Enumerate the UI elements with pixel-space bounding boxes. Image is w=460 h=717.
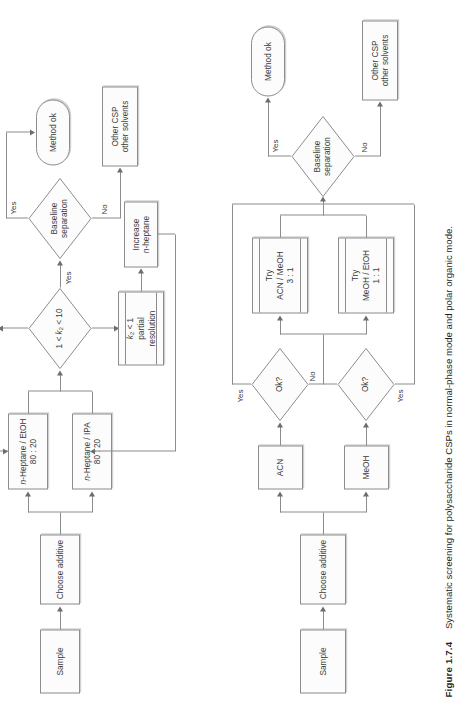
node-np-increase-heptane: Increase n-heptane [124, 201, 158, 267]
edge-po-base-yes-v [268, 155, 291, 156]
arrowhead-icon [277, 491, 283, 496]
edge-np-base-yes-v2 [6, 131, 32, 132]
arrowhead-icon [363, 422, 369, 427]
edge-np-etoh-out [28, 391, 29, 413]
node-np-k-range-decision: 1 < k2 < 10 [28, 287, 92, 369]
diamond-shape-icon [251, 347, 309, 421]
edge-po-trymeoh-out [366, 215, 367, 237]
edge-po-no-split-vertical [280, 333, 366, 334]
edge-np-fan-vertical [28, 511, 92, 512]
arrowhead-icon [363, 491, 369, 496]
node-po-ok-meoh-decision: Ok? [337, 347, 395, 421]
edge-po-fan-vertical [280, 511, 366, 512]
rotated-book-page: Sample Choose additive n-Heptane / EtOH … [0, 0, 460, 717]
node-label-line1: k2 < 1 [125, 317, 136, 338]
edge-po-to-meoh [366, 494, 367, 512]
edge-label-np-base-yes: Yes [9, 201, 18, 214]
node-label: MeOH [361, 455, 371, 479]
edge-po-yes-meoh-v2 [323, 203, 414, 204]
node-label-line1: Other CSP [370, 40, 380, 80]
edge-label-po-yes-acn: Yes [236, 389, 245, 402]
node-np-heptane-etoh: n-Heptane / EtOH 80 : 20 [8, 413, 48, 489]
node-label-line2: other solvents [380, 34, 390, 86]
node-label-line2: 80 : 20 [28, 438, 38, 463]
node-label-line1: n-Heptane / EtOH [18, 418, 28, 484]
np-ipa-rest: Heptane / IPA [82, 422, 92, 473]
edge-po-no-branch [323, 334, 324, 384]
edge-np-ipa-out [92, 391, 93, 413]
edge-np-merge-to-decision [60, 373, 61, 391]
arrowhead-icon [277, 422, 283, 427]
node-po-try-meoh-etoh: Try MeOH / EtOH 1 : 1 [338, 237, 394, 313]
edge-np-to-etoh [28, 494, 29, 512]
node-label: Sample [55, 647, 65, 675]
node-label-line3: 3 : 1 [285, 267, 295, 283]
edge-po-base-yes-h [268, 100, 269, 156]
edge-np-additive-out [60, 512, 61, 534]
edge-np-heptane-feedback-h [175, 234, 176, 451]
edge-np-heptane-feedback-v1 [158, 233, 175, 234]
edge-po-yes-acn-v [232, 383, 251, 384]
edge-np-heptane-feedback-v2 [95, 450, 175, 451]
arrowhead-icon [363, 315, 369, 320]
arrowhead-icon [117, 167, 123, 172]
node-po-acn: ACN [258, 445, 303, 489]
node-label: Sample [318, 647, 328, 675]
edge-np-decision-up [0, 327, 28, 328]
node-po-other-csp: Other CSP other solvents [362, 20, 398, 100]
figure-caption: Figure 1.7.4 Systematic screening for po… [443, 17, 454, 697]
node-label-line2: partial [136, 317, 146, 340]
edge-label-np-base-no: No [100, 204, 109, 214]
node-label-line1: Increase [131, 218, 141, 250]
node-np-sample: Sample [40, 629, 80, 693]
node-np-choose-additive: Choose additive [40, 534, 80, 604]
np-etoh-rest: Heptane / EtOH [18, 418, 28, 477]
node-po-method-ok: Method ok [251, 26, 285, 96]
node-po-baseline-decision: Baseline separation [291, 115, 355, 197]
arrowhead-icon [265, 97, 271, 102]
edge-label-po-yes-meoh: Yes [396, 389, 405, 402]
node-label-line1: Try [350, 269, 360, 281]
node-label-line1: Try [264, 269, 274, 281]
node-po-ok-acn-decision: Ok? [251, 347, 309, 421]
arrowhead-icon [89, 491, 95, 496]
node-po-meoh: MeOH [344, 445, 389, 489]
edge-np-base-yes-v [6, 217, 28, 218]
edge-po-base-no-h [380, 104, 381, 156]
edge-np-base-yes-h [6, 132, 7, 218]
node-np-k-low: k2 < 1 partial resolution [118, 291, 164, 365]
arrowhead-icon [57, 260, 63, 265]
arrowhead-icon [320, 606, 326, 611]
node-np-other-csp: Other CSP other solvents [102, 86, 138, 166]
node-label-line2: ACN / MeOH [275, 251, 285, 299]
node-np-method-ok: Method ok [36, 99, 70, 165]
figure-caption-text: Systematic screening for polysaccharide … [443, 225, 454, 628]
node-label-line2: other solvents [120, 100, 130, 152]
edge-po-yes-acn-h [232, 204, 233, 384]
edge-label-po-no-mid: No [308, 371, 317, 381]
arrowhead-icon [3, 448, 8, 454]
edge-label-po-base-yes: Yes [271, 139, 280, 152]
node-label: Method ok [263, 42, 273, 81]
edge-po-additive-out [323, 512, 324, 534]
arrowhead-icon [0, 325, 3, 331]
node-label-line3: 1 : 1 [371, 267, 381, 283]
diamond-shape-icon [28, 177, 92, 259]
node-label-line1: Other CSP [110, 106, 120, 146]
edge-po-yes-acn-v2 [232, 203, 323, 204]
diamond-shape-icon [28, 287, 92, 369]
arrowhead-icon [90, 448, 95, 454]
edge-po-tryacn-out [280, 215, 281, 237]
edge-np-base-no-v [92, 217, 120, 218]
node-po-try-acn-meoh: Try ACN / MeOH 3 : 1 [252, 237, 308, 313]
arrowhead-icon [138, 268, 144, 273]
arrowhead-icon [277, 315, 283, 320]
node-label: Choose additive [318, 539, 328, 599]
figure-canvas: Sample Choose additive n-Heptane / EtOH … [0, 0, 460, 717]
flowchart-polar-organic-mode: Sample Choose additive ACN MeOH [250, 0, 460, 717]
arrowhead-icon [57, 606, 63, 611]
edge-po-base-no-v [355, 155, 380, 156]
edge-label-np-yes: Yes [64, 271, 73, 284]
node-label: Method ok [48, 113, 58, 152]
diamond-shape-icon [337, 347, 395, 421]
